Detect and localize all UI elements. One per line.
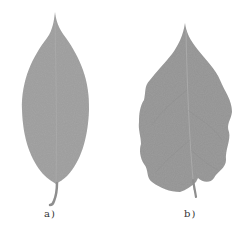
- leaf-a: [22, 12, 89, 205]
- leaf-b-petiole: [193, 180, 196, 197]
- leaf-comparison-figure: a) b): [0, 0, 245, 241]
- leaf-b-blade: [139, 23, 232, 192]
- leaf-a-petiole: [50, 183, 57, 205]
- panel-a-caption: a): [44, 208, 56, 219]
- leaf-b: [139, 23, 232, 197]
- leaf-illustrations: [0, 0, 245, 241]
- panel-b-caption: b): [184, 208, 196, 219]
